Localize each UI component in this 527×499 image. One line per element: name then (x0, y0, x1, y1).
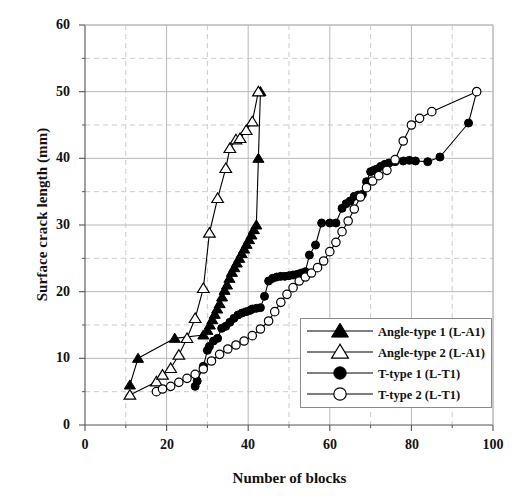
legend-label-t-type-1: T-type 1 (L-T1) (378, 367, 460, 382)
legend-label-t-type-3: T-type 2 (L-T1) (378, 388, 460, 403)
legend-label-angle-type-1: Angle-type 1 (L-A1) (378, 325, 485, 340)
chart-figure: Surface crack length (mm) Number of bloc… (0, 0, 527, 499)
series-2 (124, 86, 264, 399)
legend-label-angle-type-2: Angle-type 2 (L-A1) (378, 346, 485, 361)
plot-canvas (0, 0, 527, 499)
